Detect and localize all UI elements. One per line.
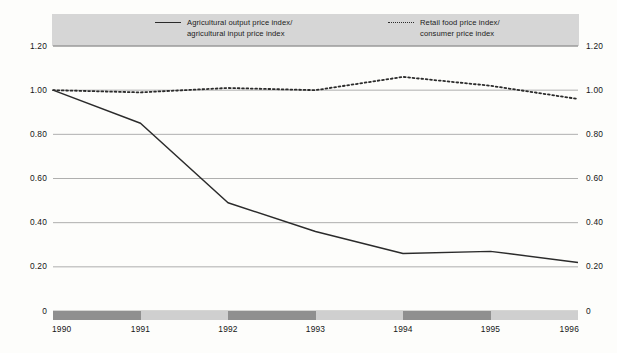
chart-figure: Agricultural output price index/ agricul… <box>0 0 617 353</box>
plot-area <box>0 0 617 353</box>
y-axis-left-tick: 0 <box>13 306 47 316</box>
year-band <box>53 311 578 320</box>
year-band-segment <box>141 311 229 320</box>
x-axis-tick: 1996 <box>560 324 579 334</box>
y-axis-left-tick: 0.20 <box>13 261 47 271</box>
series-line-0 <box>53 90 578 262</box>
y-axis-right-tick: 1.00 <box>586 85 617 95</box>
year-band-segment <box>491 311 579 320</box>
x-axis-tick: 1990 <box>52 324 71 334</box>
x-axis-tick: 1993 <box>306 324 325 334</box>
year-band-segment <box>53 311 141 320</box>
y-axis-right-tick: 0.60 <box>586 173 617 183</box>
year-band-segment <box>316 311 404 320</box>
y-axis-right-tick: 1.20 <box>586 41 617 51</box>
y-axis-right-tick: 0 <box>586 306 617 316</box>
y-axis-left-tick: 1.00 <box>13 85 47 95</box>
x-axis-tick: 1992 <box>218 324 237 334</box>
y-axis-right-tick: 0.20 <box>586 261 617 271</box>
series-line-1 <box>53 77 578 99</box>
y-axis-left-tick: 0.80 <box>13 129 47 139</box>
year-band-segment <box>228 311 316 320</box>
x-axis-tick: 1995 <box>481 324 500 334</box>
y-axis-left-tick: 0.40 <box>13 217 47 227</box>
y-axis-left-tick: 1.20 <box>13 41 47 51</box>
x-axis-tick: 1991 <box>131 324 150 334</box>
y-axis-right-tick: 0.80 <box>586 129 617 139</box>
x-axis-tick: 1994 <box>393 324 412 334</box>
y-axis-right-tick: 0.40 <box>586 217 617 227</box>
y-axis-left-tick: 0.60 <box>13 173 47 183</box>
year-band-segment <box>403 311 491 320</box>
